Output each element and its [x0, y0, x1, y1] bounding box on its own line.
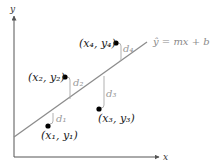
point-label-4: (x₄, y₄)	[79, 37, 116, 50]
residual-d1	[50, 113, 53, 124]
x-axis-label: x	[163, 152, 168, 162]
point-label-2: (x₂, y₂)	[28, 71, 65, 84]
regression-equation: ŷ = mx + b	[152, 36, 210, 47]
residual-d2	[67, 77, 70, 99]
residual-label-d3: d₃	[106, 88, 116, 99]
point-label-1: (x₁, y₁)	[41, 129, 78, 142]
residual-d4	[118, 43, 121, 61]
residual-label-d4: d₄	[123, 43, 133, 54]
residual-d3	[101, 76, 104, 108]
point-3	[96, 106, 101, 111]
point-1	[45, 123, 50, 128]
regression-diagram: y x ŷ = mx + b d₄ d₂ d₃ d₁ (x₄, y₄) (x₂,…	[0, 0, 220, 167]
residual-label-d1: d₁	[56, 113, 66, 124]
point-label-3: (x₃, y₃)	[98, 112, 135, 125]
y-axis-label: y	[9, 4, 16, 14]
residual-label-d2: d₂	[73, 77, 83, 88]
